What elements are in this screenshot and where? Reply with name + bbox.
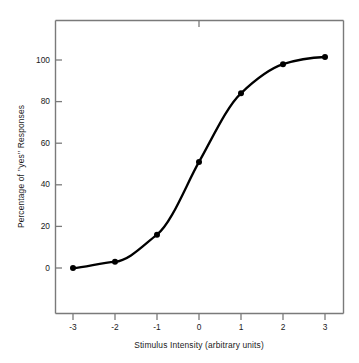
data-point [154,232,160,238]
axes-frame [56,21,344,314]
data-point [196,159,202,165]
data-point [112,259,118,265]
data-point [70,265,76,271]
x-tick-label-neg1: -1 [147,323,167,332]
x-tick-label-0: 0 [189,323,209,332]
x-tick-label-1: 1 [231,323,251,332]
data-point [280,61,286,67]
data-point [322,54,328,60]
data-point [238,90,244,96]
x-tick-label-3: 3 [315,323,335,332]
figure-canvas: 0 20 40 60 80 100 -3 -2 -1 0 1 2 3 Perce… [0,0,359,363]
y-axis-label: Percentage of ’’yes’’ Responses [14,20,28,313]
x-tick-label-2: 2 [273,323,293,332]
x-tick-label-neg3: -3 [63,323,83,332]
x-axis-label: Stimulus Intensity (arbitrary units) [55,340,343,350]
psychometric-function-chart [0,0,359,363]
x-axis-ticks [73,21,325,321]
y-axis-ticks [56,60,63,268]
data-points [70,54,328,271]
x-tick-label-neg2: -2 [105,323,125,332]
